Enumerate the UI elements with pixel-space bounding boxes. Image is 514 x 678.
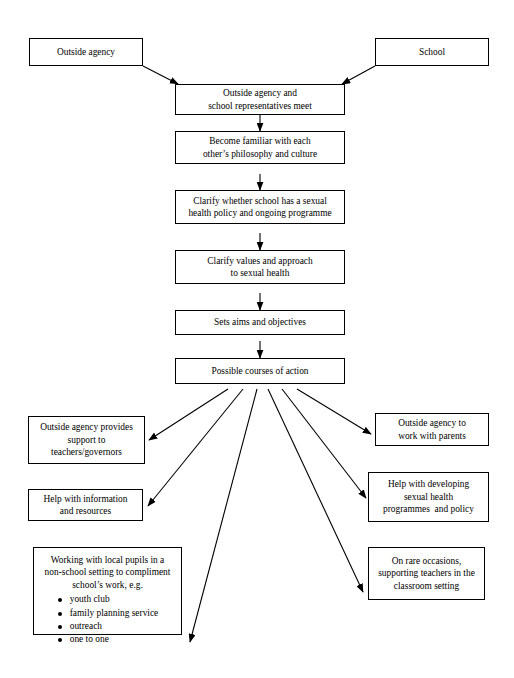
node-possible-courses[interactable]: Possible courses of action: [175, 358, 345, 384]
node-school[interactable]: School: [375, 38, 489, 66]
node-support-teachers-governors-line-1: support to: [68, 434, 106, 446]
node-help-information-resources-line-1: and resources: [60, 505, 111, 517]
node-working-local-pupils-line-0: Working with local pupils in a: [51, 554, 165, 566]
node-clarify-values-line-0: Clarify values and approach: [207, 255, 312, 267]
node-working-local-pupils-line-1: non-school setting to compliment: [45, 566, 171, 578]
node-help-developing-programmes[interactable]: Help with developing sexual health progr…: [368, 472, 489, 522]
node-support-teachers-governors[interactable]: Outside agency provides support to teach…: [28, 416, 145, 464]
node-clarify-policy[interactable]: Clarify whether school has a sexual heal…: [175, 190, 345, 224]
flowchart-canvas: Outside agency School Outside agency and…: [0, 0, 514, 678]
edge-possible-to-work-parents: [297, 389, 371, 434]
node-clarify-policy-line-0: Clarify whether school has a sexual: [193, 195, 327, 207]
node-help-developing-programmes-line-2: programmes and policy: [383, 503, 474, 515]
list-item: family planning service: [57, 607, 159, 620]
node-clarify-values-line-1: to sexual health: [231, 267, 290, 279]
edge-school-to-meet: [342, 66, 375, 84]
node-clarify-values[interactable]: Clarify values and approach to sexual he…: [175, 250, 345, 284]
node-work-with-parents-line-0: Outside agency to: [398, 417, 466, 429]
node-outside-agency[interactable]: Outside agency: [29, 38, 143, 66]
node-become-familiar-line-1: other’s philosophy and culture: [203, 148, 317, 160]
node-school-line-0: School: [419, 46, 445, 58]
node-work-with-parents[interactable]: Outside agency to work with parents: [375, 413, 489, 446]
node-representatives-meet-line-0: Outside agency and: [223, 87, 297, 99]
node-rare-occasions-classroom-line-1: supporting teachers in the: [378, 567, 475, 579]
node-representatives-meet[interactable]: Outside agency and school representative…: [175, 84, 345, 115]
node-rare-occasions-classroom-line-2: classroom setting: [394, 580, 459, 592]
edge-possible-to-help-information: [148, 389, 243, 506]
list-item: outreach: [57, 620, 159, 633]
list-item: one to one: [57, 633, 159, 646]
node-help-developing-programmes-line-1: sexual health: [404, 491, 453, 503]
node-sets-aims-line-0: Sets aims and objectives: [214, 316, 306, 328]
node-possible-courses-line-0: Possible courses of action: [211, 365, 308, 377]
node-clarify-policy-line-1: health policy and ongoing programme: [188, 207, 331, 219]
node-help-developing-programmes-line-0: Help with developing: [388, 478, 469, 490]
edge-possible-to-support-teachers: [149, 389, 228, 440]
node-help-information-resources-line-0: Help with information: [44, 493, 128, 505]
list-item: youth club: [57, 593, 159, 606]
edge-possible-to-rare-occasions: [268, 389, 363, 592]
node-representatives-meet-line-1: school representatives meet: [208, 100, 312, 112]
node-sets-aims[interactable]: Sets aims and objectives: [175, 310, 345, 335]
node-working-local-pupils-bullet-list: youth club family planning service outre…: [57, 593, 159, 646]
node-outside-agency-line-0: Outside agency: [57, 46, 115, 58]
node-help-information-resources[interactable]: Help with information and resources: [28, 489, 143, 521]
node-support-teachers-governors-line-2: teachers/governors: [51, 446, 122, 458]
node-rare-occasions-classroom[interactable]: On rare occasions, supporting teachers i…: [368, 547, 485, 600]
node-rare-occasions-classroom-line-0: On rare occasions,: [392, 555, 462, 567]
edge-possible-to-help-developing: [282, 389, 366, 498]
node-become-familiar-line-0: Become familiar with each: [209, 135, 310, 147]
node-working-local-pupils-line-2: school’s work, e.g.: [72, 579, 143, 591]
node-support-teachers-governors-line-0: Outside agency provides: [40, 421, 133, 433]
node-work-with-parents-line-1: work with parents: [398, 430, 466, 442]
node-working-local-pupils[interactable]: Working with local pupils in a non-schoo…: [33, 547, 182, 635]
edge-outside-agency-to-meet: [143, 66, 178, 84]
edge-possible-to-working-local: [190, 389, 257, 642]
node-become-familiar[interactable]: Become familiar with each other’s philos…: [175, 131, 345, 164]
